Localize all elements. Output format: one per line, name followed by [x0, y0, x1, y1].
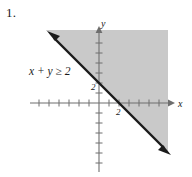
coordinate-plane: y x 2 2 [0, 0, 192, 177]
x-axis-arrow [168, 100, 175, 107]
x-axis-label: x [177, 98, 183, 109]
y-intercept-label: 2 [91, 82, 96, 92]
y-axis-label: y [100, 18, 106, 29]
inequality-graph-figure: 1. x + y ≥ 2 [0, 0, 192, 177]
x-intercept-label: 2 [116, 107, 121, 117]
